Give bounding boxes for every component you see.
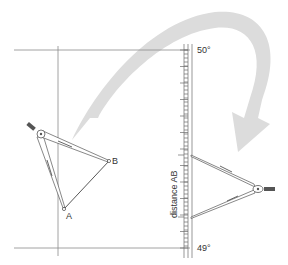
dividers-on-chart <box>26 122 110 211</box>
point-a-label: A <box>66 211 72 221</box>
latitude-label-49: 49° <box>197 243 211 253</box>
line-ab <box>64 161 109 209</box>
dividers-distance-diagram: 50° 49° distance AB A B <box>0 0 288 265</box>
point-b-label: B <box>112 156 118 166</box>
transfer-arrow <box>72 12 271 152</box>
dividers-on-scale <box>191 155 275 219</box>
latitude-label-50: 50° <box>197 45 211 55</box>
chart-grid <box>14 46 190 256</box>
latitude-scale <box>180 44 192 258</box>
distance-ab-label: distance AB <box>169 170 179 218</box>
